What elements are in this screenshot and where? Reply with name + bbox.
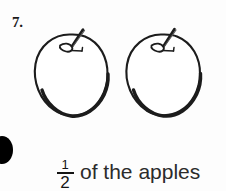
- apple-icon: [122, 24, 204, 124]
- fraction-one-half: 1 2: [55, 158, 75, 191]
- answer-statement: 1 2 of the apples: [55, 158, 200, 191]
- worksheet-problem-7: 7.: [0, 0, 226, 191]
- answer-label: of the apples: [80, 160, 200, 184]
- fraction-denominator: 2: [60, 174, 69, 191]
- filled-circle-bullet-icon: [0, 136, 13, 164]
- apple-icon: [30, 24, 112, 124]
- problem-number: 7.: [12, 15, 23, 30]
- fraction-numerator: 1: [61, 158, 68, 171]
- apple-illustration-group: [30, 24, 206, 124]
